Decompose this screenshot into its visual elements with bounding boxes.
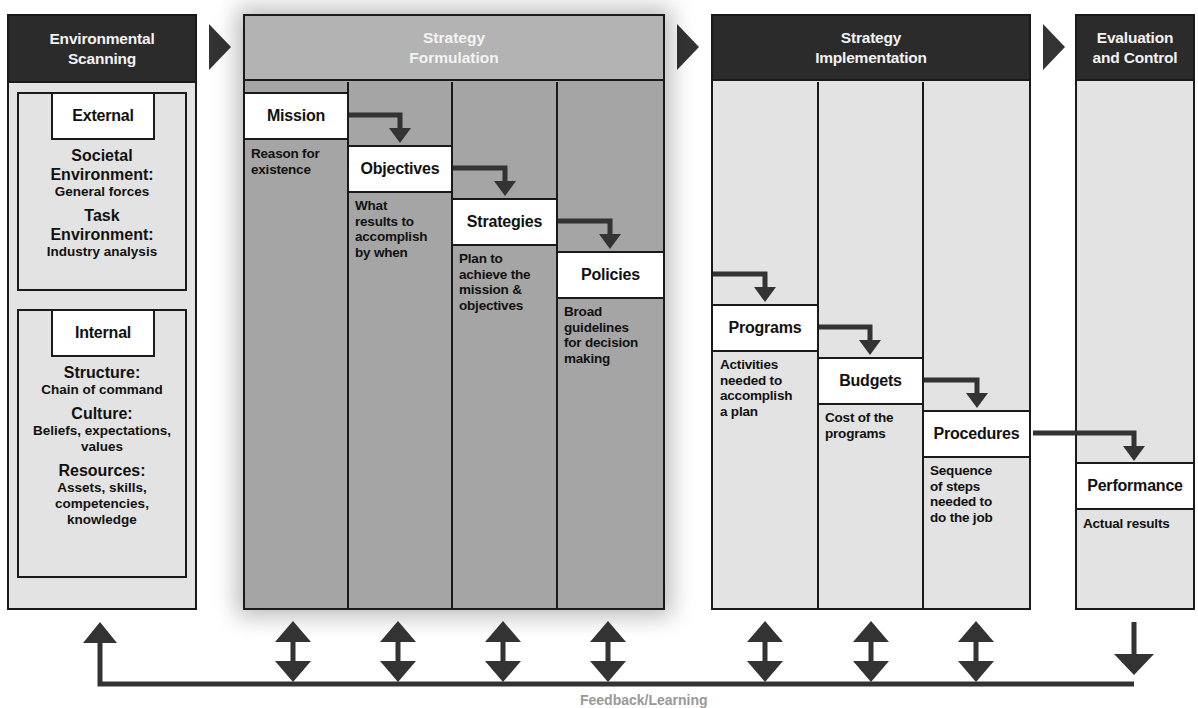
down-arrow-icon	[1132, 622, 1137, 658]
double-arrow-icon	[275, 621, 994, 682]
up-arrow-icon	[83, 622, 117, 643]
feedback-label: Feedback/Learning	[580, 692, 708, 708]
elbow-arrow-icon	[349, 115, 1134, 449]
